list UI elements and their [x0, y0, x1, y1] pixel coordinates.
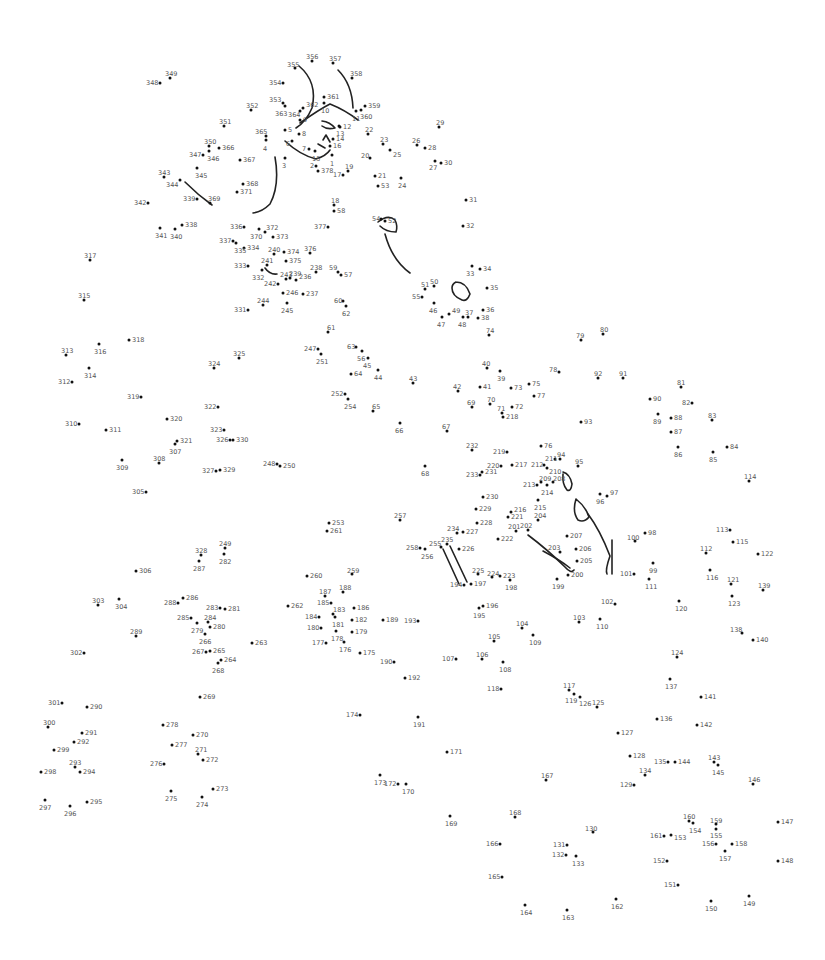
dot-number-label: 305: [132, 488, 144, 496]
dot-marker: [669, 678, 672, 681]
dot-number-label: 124: [671, 649, 683, 657]
dot-309: 309: [116, 459, 128, 473]
dot-marker: [367, 357, 370, 360]
dot-number-label: 222: [501, 535, 513, 543]
dot-number-label: 361: [327, 93, 339, 101]
dot-331: 331: [234, 306, 250, 314]
dot-number-label: 52: [388, 217, 396, 225]
dot-114: 114: [744, 473, 756, 483]
dot-190: 190: [380, 658, 396, 666]
dot-number-label: 2: [310, 162, 314, 170]
dot-140: 140: [752, 636, 769, 644]
dot-229: 229: [475, 505, 492, 513]
dot-64: 64: [350, 370, 363, 378]
dot-marker: [419, 547, 422, 550]
dot-171: 171: [446, 748, 463, 756]
dot-number-label: 97: [610, 489, 618, 497]
dot-marker: [566, 909, 569, 912]
dot-number-label: 218: [506, 413, 518, 421]
dot-number-label: 244: [257, 297, 269, 305]
dot-225: 225: [472, 567, 484, 576]
dot-153: 153: [670, 834, 687, 843]
dot-marker: [162, 724, 165, 727]
dot-280: 280: [209, 623, 226, 631]
dot-number-label: 344: [166, 181, 178, 189]
dot-number-label: 207: [570, 532, 582, 540]
dot-number-label: 112: [700, 545, 712, 553]
dot-marker: [677, 884, 680, 887]
dot-221: 221: [507, 513, 524, 521]
dot-67: 67: [442, 423, 450, 433]
dot-marker: [455, 658, 458, 661]
dot-number-label: 32: [466, 222, 474, 230]
dot-number-label: 163: [562, 914, 574, 922]
dot-marker: [205, 651, 208, 654]
dot-number-label: 205: [580, 557, 592, 565]
dot-marker: [236, 191, 239, 194]
dot-marker: [567, 574, 570, 577]
dot-20: 20: [361, 152, 372, 160]
dot-number-label: 348: [146, 79, 158, 87]
dot-marker: [528, 383, 531, 386]
dot-219: 219: [493, 448, 509, 456]
dot-number-label: 63: [347, 343, 355, 351]
dot-287: 287: [193, 560, 205, 574]
dot-61: 61: [327, 324, 336, 334]
dot-53: 53: [377, 182, 390, 190]
dot-128: 128: [629, 752, 646, 760]
dot-number-label: 263: [255, 639, 267, 647]
dot-48: 48: [458, 316, 466, 330]
dot-number-label: 99: [649, 567, 657, 575]
dot-number-label: 232: [466, 442, 478, 450]
dot-number-label: 128: [633, 752, 645, 760]
dot-number-label: 186: [357, 604, 369, 612]
dot-number-label: 219: [493, 448, 505, 456]
dot-number-label: 38: [481, 314, 489, 322]
dot-75: 75: [528, 380, 541, 388]
dot-number-label: 241: [261, 257, 273, 265]
dot-marker: [98, 343, 101, 346]
dot-marker: [361, 350, 364, 353]
dot-number-label: 230: [486, 493, 498, 501]
dot-number-label: 226: [462, 545, 474, 553]
dot-number-label: 281: [228, 605, 240, 613]
dot-number-label: 60: [334, 297, 342, 305]
dot-marker: [83, 652, 86, 655]
dot-marker: [325, 642, 328, 645]
dot-marker: [359, 652, 362, 655]
dot-227: 227: [462, 528, 479, 536]
dot-number-label: 261: [330, 527, 342, 535]
dot-number-label: 175: [363, 649, 375, 657]
dot-number-label: 171: [450, 748, 462, 756]
dot-59: 59: [329, 264, 340, 274]
dot-marker: [691, 402, 694, 405]
dot-number-label: 177: [312, 639, 324, 647]
dot-number-label: 85: [709, 456, 717, 464]
dot-marker: [282, 82, 285, 85]
dot-marker: [40, 771, 43, 774]
dot-marker: [44, 799, 47, 802]
dot-marker: [88, 367, 91, 370]
dot-number-label: 136: [660, 715, 672, 723]
dot-marker: [220, 659, 223, 662]
dot-43: 43: [409, 375, 417, 385]
dot-marker: [359, 714, 362, 717]
dot-marker: [298, 133, 301, 136]
dot-186: 186: [353, 604, 370, 612]
dot-marker: [599, 493, 602, 496]
dot-marker: [174, 228, 177, 231]
dot-marker: [573, 693, 576, 696]
dot-number-label: 260: [310, 572, 322, 580]
dot-marker: [729, 529, 732, 532]
dot-number-label: 81: [677, 379, 685, 387]
dot-marker: [731, 843, 734, 846]
dot-156: 156: [702, 840, 718, 848]
dot-373: 373: [272, 233, 289, 241]
dot-marker: [692, 822, 695, 825]
dot-293: 293: [69, 759, 81, 769]
dot-number-label: 265: [213, 647, 225, 655]
dot-178: 178: [331, 630, 343, 644]
dot-marker: [700, 696, 703, 699]
dot-number-label: 370: [250, 233, 262, 241]
dot-262: 262: [287, 602, 304, 610]
